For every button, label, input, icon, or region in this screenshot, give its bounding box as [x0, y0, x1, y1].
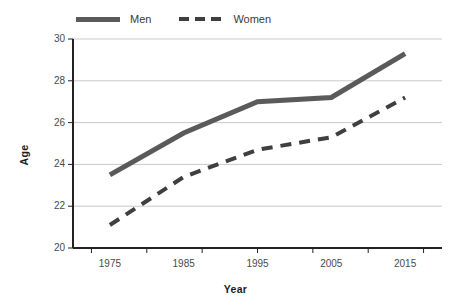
x-tick-label-1985: 1985	[159, 259, 209, 269]
y-tick-label-26: 26	[35, 118, 65, 128]
x-tick-label-2015: 2015	[380, 259, 430, 269]
y-tick-label-24: 24	[35, 159, 65, 169]
axis-ticks	[68, 39, 424, 253]
series-line-men	[110, 54, 405, 175]
y-tick-label-30: 30	[35, 34, 65, 44]
axis-lines	[73, 39, 442, 248]
line-chart: Men Women Age Year 302826242220 19751985…	[0, 0, 471, 306]
y-tick-label-28: 28	[35, 76, 65, 86]
x-tick-label-1975: 1975	[85, 259, 135, 269]
x-tick-label-1995: 1995	[233, 259, 283, 269]
y-tick-label-20: 20	[35, 243, 65, 253]
series-layer	[110, 54, 405, 225]
gridlines	[73, 39, 442, 248]
x-tick-label-2005: 2005	[306, 259, 356, 269]
y-tick-label-22: 22	[35, 201, 65, 211]
